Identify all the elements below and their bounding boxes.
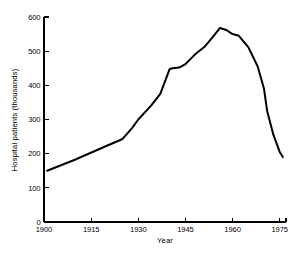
y-tick-label: 400 <box>28 81 40 90</box>
y-tick-label: 300 <box>28 115 40 124</box>
x-tick-label: 1960 <box>224 225 241 234</box>
x-tick-label: 1900 <box>36 225 53 234</box>
y-tick-label: 100 <box>28 184 40 193</box>
x-axis-title: Year <box>157 236 173 245</box>
y-tick-label: 600 <box>28 13 40 22</box>
line-chart: 0100200300400500600 19001915193019451960… <box>0 0 304 254</box>
x-tick-label: 1915 <box>83 225 100 234</box>
y-tick-label: 500 <box>28 47 40 56</box>
chart-container: 0100200300400500600 19001915193019451960… <box>0 0 304 254</box>
chart-background <box>0 0 304 254</box>
x-tick-label: 1930 <box>130 225 147 234</box>
x-tick-label: 1945 <box>177 225 194 234</box>
x-tick-label: 1975 <box>271 225 288 234</box>
y-axis-title: Hospital patients (thousands) <box>10 68 19 171</box>
y-tick-label: 200 <box>28 149 40 158</box>
